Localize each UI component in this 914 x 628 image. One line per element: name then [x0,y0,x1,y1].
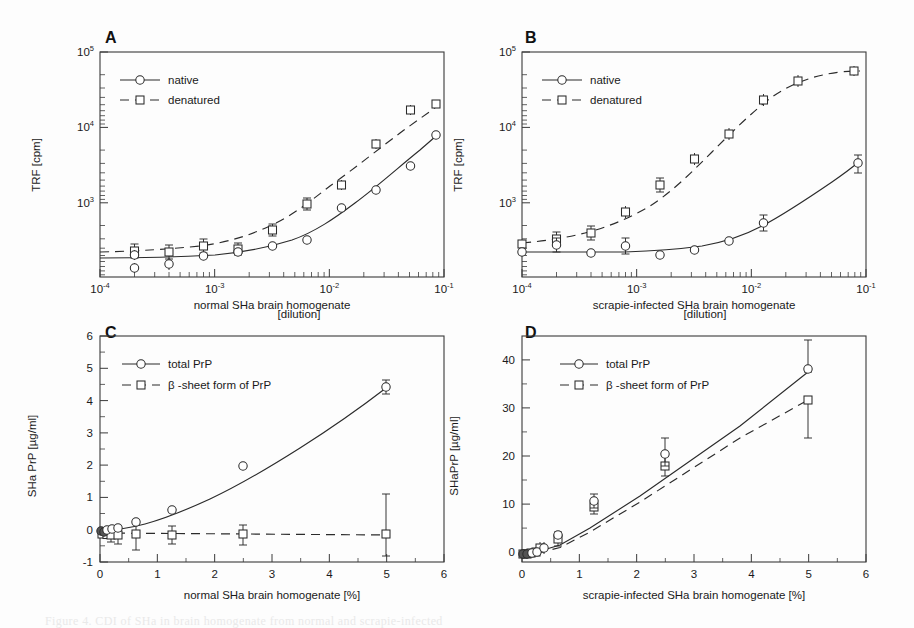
panel-b-plot-area: 105 104 103 [499,44,876,295]
panel-c-y-axis-label: SHa PrP [µg/ml] [26,415,38,497]
panel-d-xtick-6: 6 [863,568,869,580]
panel-c-xtick-3: 3 [269,568,275,580]
panel-c-plot-area: 6 5 4 3 2 1 0 -1 [83,330,447,580]
panel-b-xtick-1e-3: 10-3 [627,281,646,295]
panel-d-xtick-5: 5 [805,568,811,580]
panel-c-ytick-5: 5 [87,362,93,374]
panel-d-y-axis-label: SHaPrP [µg/ml] [448,416,460,495]
panel-c-total-prp-curve [101,388,386,531]
panel-d-letter: D [525,324,537,341]
panel-a-denatured-points [131,100,441,259]
panel-c-xtick-0: 0 [97,568,103,580]
panel-a-native-curve [100,134,438,258]
panel-a-letter: A [105,29,117,46]
panel-c-xtick-4: 4 [326,568,333,580]
panel-d-x-axis-label: scrapie-infected SHa brain homogenate [%… [583,589,805,601]
panel-a-legend-label-1: denatured [168,94,220,106]
panel-b: B TRF [cpm] [440,0,914,315]
panel-d-legend-label-0: total PrP [606,358,650,370]
panel-d-ytick-30: 30 [502,402,515,414]
panel-c-legend-label-1: β -sheet form of PrP [168,379,271,391]
panel-d-xtick-3: 3 [691,568,697,580]
panel-a-legend: native denatured [120,74,220,106]
panel-d-xtick-1: 1 [576,568,582,580]
panel-a-ytick-1e5: 105 [77,44,94,58]
panel-b-native-curve [522,161,860,252]
panel-d-plot-area: 40 30 20 10 0 [502,336,869,580]
panel-c-ytick-0: 0 [87,524,93,536]
panel-d-xtick-4: 4 [748,568,755,580]
panel-c-x-axis-label: normal SHa brain homogenate [%] [184,589,360,601]
panel-b-legend-label-1: denatured [590,94,642,106]
panel-c-ytick-2: 2 [87,459,93,471]
panel-a-xtick-1e-4: 10-4 [90,281,109,295]
panel-d-x-ticks [522,554,866,562]
panel-d-xtick-0: 0 [519,568,525,580]
panel-d-legend: total PrP β -sheet form of PrP [560,358,709,391]
panel-b-y-axis-label: TRF [cpm] [452,138,464,192]
panel-c-total-prp-points [97,380,390,536]
panel-d-total-prp-points [519,340,812,558]
panel-d-legend-label-1: β -sheet form of PrP [606,379,709,391]
panel-a-xtick-1e-2: 10-2 [320,281,339,295]
panel-a-x-ticks [100,269,444,277]
panel-c-ytick-3: 3 [87,427,93,439]
panel-c-legend: total PrP β -sheet form of PrP [122,358,271,391]
panel-a-y-axis-label: TRF [cpm] [30,138,42,192]
panel-b-x-ticks [522,269,866,277]
panel-a-plot-area: 105 104 103 [77,44,454,295]
cut-off-caption: Figure 4. CDI of SHa in brain homogenate… [0,614,914,628]
panel-c-ytick-neg1: -1 [83,556,93,568]
panel-d-ytick-0: 0 [509,546,515,558]
figure-root: A TRF [cpm] [0,0,914,628]
panel-c-xtick-1: 1 [154,568,160,580]
panel-a-ytick-1e4: 104 [77,119,94,133]
panel-b-xtick-1e-1: 10-1 [856,281,875,295]
panel-c-ytick-6: 6 [87,330,93,342]
panel-c-letter: C [105,324,117,341]
panel-b-ytick-1e3: 103 [499,195,516,209]
panel-b-xtick-1e-4: 10-4 [512,281,531,295]
panel-d-xtick-2: 2 [633,568,639,580]
panel-b-native-points [518,155,862,259]
panel-c-ytick-4: 4 [87,395,94,407]
panel-d-beta-sheet-points [519,396,812,558]
panel-b-xtick-1e-2: 10-2 [742,281,761,295]
panel-d: D SHaPrP [µg/ml] 40 30 2 [440,316,914,616]
panel-b-ytick-1e4: 104 [499,119,516,133]
panel-b-letter: B [525,29,537,46]
panel-c: C SHa PrP [µg/ml] [0,316,470,616]
panel-d-ytick-40: 40 [502,354,515,366]
panel-b-denatured-points [518,66,858,248]
panel-d-ytick-20: 20 [502,450,515,462]
panel-c-xtick-5: 5 [383,568,389,580]
panel-b-legend: native denatured [542,74,642,106]
panel-a-ytick-1e3: 103 [77,195,94,209]
panel-b-legend-label-0: native [590,74,621,86]
panel-c-ytick-1: 1 [87,491,93,503]
panel-a-legend-label-0: native [168,74,199,86]
panel-d-beta-sheet-curve [523,400,808,555]
panel-c-x-ticks [100,554,444,562]
panel-c-legend-label-0: total PrP [168,358,212,370]
panel-d-ytick-10: 10 [502,498,515,510]
panel-a: A TRF [cpm] [0,0,470,315]
panel-b-ytick-1e5: 105 [499,44,516,58]
panel-a-y-ticks [100,52,108,275]
panel-a-native-points [130,131,440,273]
panel-d-y-ticks [522,360,530,552]
panel-c-xtick-2: 2 [211,568,217,580]
panel-a-xtick-1e-3: 10-3 [205,281,224,295]
